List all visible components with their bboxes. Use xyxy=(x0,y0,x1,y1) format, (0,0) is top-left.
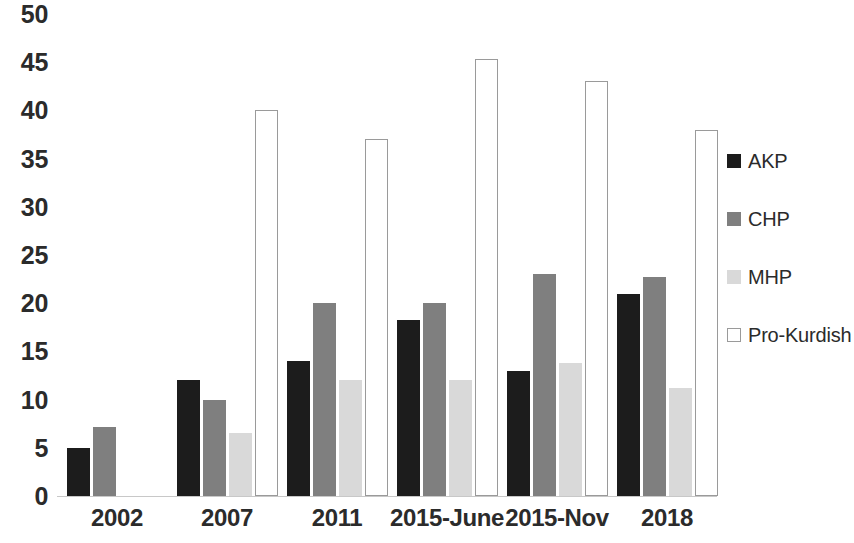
bar-akp xyxy=(287,361,310,496)
legend-label: CHP xyxy=(748,209,790,229)
bar-chp xyxy=(643,277,666,496)
bar-group xyxy=(503,14,611,496)
bar-akp xyxy=(397,320,420,496)
bar-akp xyxy=(177,380,200,496)
y-tick-label: 45 xyxy=(21,50,48,75)
bar-kurdish xyxy=(695,130,718,496)
y-tick-label: 10 xyxy=(21,388,48,413)
bar-mhp xyxy=(559,363,582,496)
bar-kurdish xyxy=(255,110,278,496)
bar-mhp xyxy=(229,433,252,496)
bar-mhp xyxy=(669,388,692,496)
y-tick-label: 40 xyxy=(21,98,48,123)
bar-akp xyxy=(617,294,640,496)
x-tick-label: 2018 xyxy=(597,505,737,531)
y-tick-label: 30 xyxy=(21,195,48,220)
bar-kurdish xyxy=(475,59,498,496)
y-tick-label: 5 xyxy=(34,436,48,461)
legend-label: MHP xyxy=(748,267,792,287)
bar-group xyxy=(173,14,281,496)
bar-chp xyxy=(313,303,336,496)
legend-swatch-icon xyxy=(727,270,741,284)
bar-group xyxy=(613,14,721,496)
bar-kurdish xyxy=(585,81,608,496)
bar-chart: 05101520253035404550 2002200720112015-Ju… xyxy=(0,0,854,543)
y-tick-label: 25 xyxy=(21,243,48,268)
bar-akp xyxy=(67,448,90,496)
bar-mhp xyxy=(449,380,472,496)
plot-area xyxy=(57,14,717,496)
legend-item-chp[interactable]: CHP xyxy=(727,208,790,230)
bar-chp xyxy=(533,274,556,496)
bar-chp xyxy=(93,427,116,496)
y-tick-label: 35 xyxy=(21,147,48,172)
legend-swatch-icon xyxy=(727,212,741,226)
legend-item-kurdish[interactable]: Pro-Kurdish xyxy=(727,324,851,346)
legend-swatch-icon xyxy=(727,328,741,342)
y-tick-label: 20 xyxy=(21,291,48,316)
y-tick-label: 0 xyxy=(34,484,48,509)
bar-kurdish xyxy=(365,139,388,496)
bar-group xyxy=(63,14,171,496)
bar-group xyxy=(283,14,391,496)
y-tick-label: 15 xyxy=(21,339,48,364)
x-axis: 2002200720112015-June2015-Nov2018 xyxy=(57,505,717,543)
legend-label: Pro-Kurdish xyxy=(748,325,851,345)
legend-item-akp[interactable]: AKP xyxy=(727,150,787,172)
bar-chp xyxy=(423,303,446,496)
legend-label: AKP xyxy=(748,151,787,171)
bar-chp xyxy=(203,400,226,496)
bar-mhp xyxy=(339,380,362,496)
y-tick-label: 50 xyxy=(21,2,48,27)
legend-item-mhp[interactable]: MHP xyxy=(727,266,792,288)
bar-group xyxy=(393,14,501,496)
legend-swatch-icon xyxy=(727,154,741,168)
axis-baseline xyxy=(57,496,717,497)
bar-akp xyxy=(507,371,530,496)
y-axis: 05101520253035404550 xyxy=(0,0,52,510)
